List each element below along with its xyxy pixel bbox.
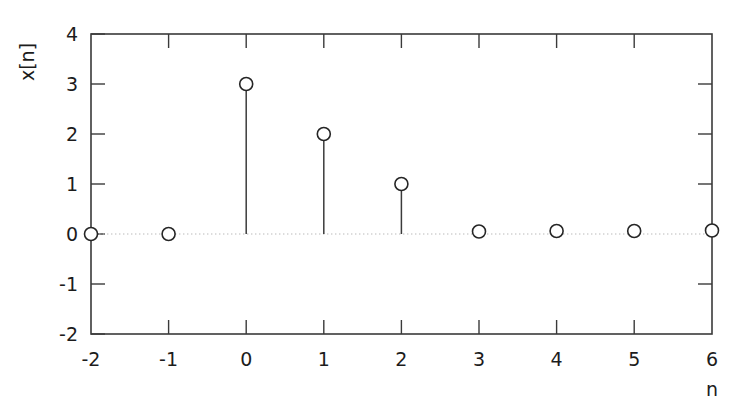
data-point-marker xyxy=(628,225,641,238)
x-tick-label: 0 xyxy=(240,348,252,370)
data-point-marker xyxy=(240,78,253,91)
x-tick-label: -1 xyxy=(159,348,178,370)
x-tick-label: 3 xyxy=(473,348,485,370)
y-tick-label: -2 xyxy=(59,323,78,345)
x-tick-label: 5 xyxy=(628,348,640,370)
x-axis-ticks-mirror xyxy=(169,34,635,48)
data-point-marker xyxy=(317,128,330,141)
y-tick-label: 3 xyxy=(66,73,78,95)
data-point-marker xyxy=(550,225,563,238)
data-point-marker xyxy=(395,178,408,191)
y-axis-ticks-mirror xyxy=(698,84,712,284)
x-tick-label: 1 xyxy=(318,348,330,370)
stem-lines xyxy=(246,84,401,234)
x-axis-title: n xyxy=(706,378,718,400)
x-tick-labels: -2 -1 0 1 2 3 4 5 6 xyxy=(82,348,719,370)
y-axis-ticks xyxy=(91,34,105,334)
y-tick-label: 1 xyxy=(66,173,78,195)
y-axis-title: x[n] xyxy=(16,43,38,81)
data-point-marker xyxy=(473,225,486,238)
y-tick-label: 2 xyxy=(66,123,78,145)
y-tick-label: 0 xyxy=(66,223,78,245)
data-point-marker xyxy=(706,224,719,237)
y-tick-label: -1 xyxy=(59,273,78,295)
x-tick-label: 4 xyxy=(551,348,563,370)
stem-plot-figure: 4 3 2 1 0 -1 -2 -2 -1 0 1 2 3 4 5 6 x[n]… xyxy=(0,0,741,408)
x-tick-label: 6 xyxy=(706,348,718,370)
x-tick-label: -2 xyxy=(82,348,101,370)
data-point-marker xyxy=(85,228,98,241)
data-point-marker xyxy=(162,228,175,241)
y-tick-label: 4 xyxy=(66,23,78,45)
x-tick-label: 2 xyxy=(395,348,407,370)
y-tick-labels: 4 3 2 1 0 -1 -2 xyxy=(59,23,78,345)
x-axis-ticks xyxy=(169,320,635,334)
stem-plot-canvas: 4 3 2 1 0 -1 -2 -2 -1 0 1 2 3 4 5 6 x[n]… xyxy=(0,0,741,408)
